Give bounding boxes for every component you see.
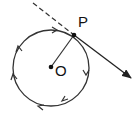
velocity-vector [74,35,131,78]
center-o-dot [49,65,54,70]
point-p-dot [72,33,77,38]
arrow-bottom-icon [38,105,44,110]
label-p: P [78,13,88,30]
label-o: O [55,62,67,79]
circular-motion-diagram: P O [0,0,138,119]
arrow-upper-left-icon [16,46,22,52]
arrow-bottom-right-icon [62,96,68,101]
